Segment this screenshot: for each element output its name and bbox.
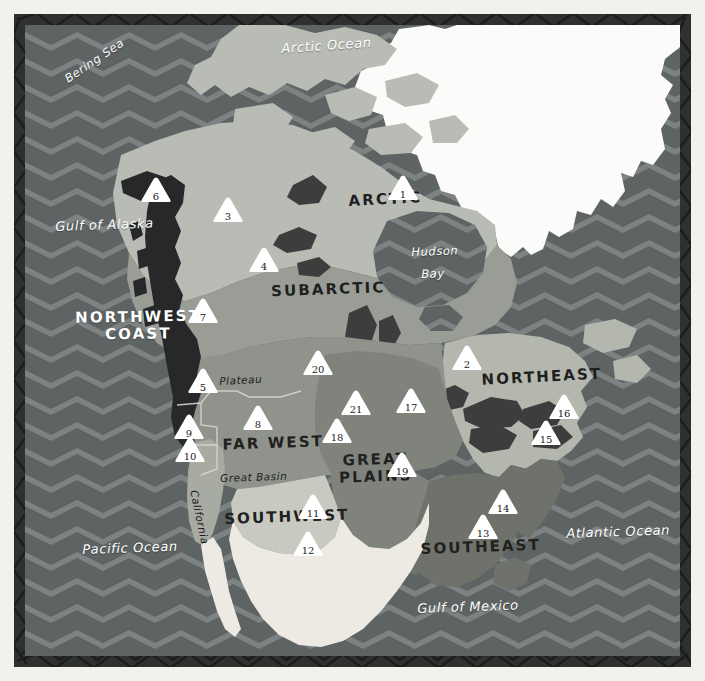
map-marker-20[interactable]: 20 xyxy=(301,348,335,377)
map-marker-4[interactable]: 4 xyxy=(247,245,281,274)
map-marker-number: 3 xyxy=(211,212,245,222)
culture-areas-map: Arctic OceanBering SeaGulf of AlaskaHuds… xyxy=(0,0,705,681)
map-marker-number: 10 xyxy=(173,452,207,462)
map-marker-17[interactable]: 17 xyxy=(394,386,428,415)
map-marker-8[interactable]: 8 xyxy=(241,403,275,432)
map-marker-number: 17 xyxy=(394,403,428,413)
map-marker-11[interactable]: 11 xyxy=(296,492,330,521)
map-canvas xyxy=(25,25,680,656)
map-marker-7[interactable]: 7 xyxy=(186,296,220,325)
map-marker-19[interactable]: 19 xyxy=(385,450,419,479)
map-marker-number: 7 xyxy=(186,313,220,323)
map-marker-3[interactable]: 3 xyxy=(211,195,245,224)
map-marker-number: 5 xyxy=(186,383,220,393)
map-marker-number: 4 xyxy=(247,262,281,272)
map-marker-5[interactable]: 5 xyxy=(186,366,220,395)
map-marker-number: 16 xyxy=(547,409,581,419)
map-marker-15[interactable]: 15 xyxy=(529,418,563,447)
map-marker-6[interactable]: 6 xyxy=(139,175,173,204)
map-marker-1[interactable]: 1 xyxy=(386,173,420,202)
map-marker-number: 15 xyxy=(529,435,563,445)
map-marker-14[interactable]: 14 xyxy=(486,487,520,516)
map-marker-21[interactable]: 21 xyxy=(339,388,373,417)
map-marker-number: 18 xyxy=(320,433,354,443)
map-marker-12[interactable]: 12 xyxy=(291,529,325,558)
map-marker-number: 13 xyxy=(466,529,500,539)
map-marker-number: 1 xyxy=(386,190,420,200)
map-marker-number: 12 xyxy=(291,546,325,556)
map-marker-13[interactable]: 13 xyxy=(466,512,500,541)
map-marker-number: 2 xyxy=(450,360,484,370)
map-marker-16[interactable]: 16 xyxy=(547,392,581,421)
map-marker-number: 14 xyxy=(486,504,520,514)
map-marker-number: 19 xyxy=(385,467,419,477)
map-marker-2[interactable]: 2 xyxy=(450,343,484,372)
map-marker-number: 11 xyxy=(296,509,330,519)
map-marker-number: 8 xyxy=(241,420,275,430)
map-marker-18[interactable]: 18 xyxy=(320,416,354,445)
map-marker-10[interactable]: 10 xyxy=(173,435,207,464)
map-marker-number: 6 xyxy=(139,192,173,202)
map-marker-number: 21 xyxy=(339,405,373,415)
map-marker-number: 20 xyxy=(301,365,335,375)
